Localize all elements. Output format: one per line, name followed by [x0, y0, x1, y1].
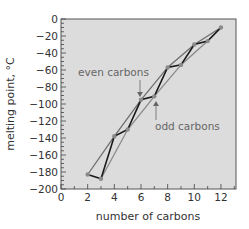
- x-axis-title: number of carbons: [96, 210, 201, 223]
- odd-carbons-label: odd carbons: [155, 120, 220, 132]
- y-tick-label: −100: [29, 98, 58, 110]
- data-point: [112, 134, 116, 138]
- x-tick-label: 10: [188, 191, 201, 203]
- y-tick-label: −40: [36, 47, 58, 59]
- y-axis: 0−20−40−60−80−100−120−140−160−180−200: [29, 13, 66, 195]
- data-point: [179, 63, 183, 67]
- y-axis-title: melting point, °C: [4, 57, 17, 151]
- y-tick-label: −80: [36, 81, 58, 93]
- x-tick-label: 4: [111, 191, 118, 203]
- x-tick-label: 0: [58, 191, 65, 203]
- data-point: [165, 65, 169, 69]
- x-tick-label: 2: [84, 191, 91, 203]
- x-tick-label: 12: [214, 191, 227, 203]
- y-tick-label: −60: [36, 64, 58, 76]
- y-tick-label: −20: [36, 30, 58, 42]
- melting-point-chart: 0−20−40−60−80−100−120−140−160−180−200 02…: [0, 0, 249, 229]
- data-point: [152, 94, 156, 98]
- data-point: [205, 39, 209, 43]
- even-carbons-label: even carbons: [78, 66, 149, 78]
- data-point: [125, 127, 129, 131]
- data-point: [139, 98, 143, 102]
- y-tick-label: −160: [29, 149, 58, 161]
- y-tick-label: −200: [29, 183, 58, 195]
- x-tick-label: 6: [138, 191, 145, 203]
- data-point: [192, 42, 196, 46]
- data-point: [99, 177, 103, 181]
- data-point: [219, 25, 223, 29]
- x-tick-label: 8: [164, 191, 171, 203]
- y-tick-label: −140: [29, 132, 58, 144]
- y-tick-label: 0: [51, 13, 58, 25]
- y-tick-label: −180: [29, 166, 58, 178]
- y-tick-label: −120: [29, 115, 58, 127]
- data-point: [85, 172, 89, 176]
